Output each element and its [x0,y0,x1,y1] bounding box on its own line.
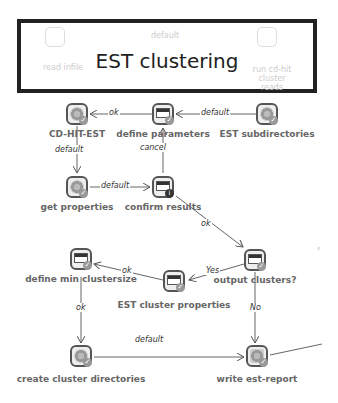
check-badge-icon: ✓ [83,358,92,367]
edge-label-default: default [200,108,230,117]
node-label: get properties [41,202,114,212]
node-define-min-clustersize[interactable]: ✓ [70,248,92,270]
node-confirm-results[interactable]: i [152,176,174,198]
node-label: confirm results [125,202,202,212]
edge-label-cancel: cancel [139,143,167,152]
edge-label-ok: ok [108,108,120,117]
node-create-cluster-directories[interactable]: ✓ [70,345,92,367]
edge-label-ok: ok [200,219,212,228]
edge-label-default: default [134,335,164,344]
node-label: EST cluster properties [118,300,231,310]
check-badge-icon: ✓ [79,116,88,125]
node-est-subdirectories[interactable]: ✓ [256,103,278,125]
node-label: EST subdirectories [220,129,315,139]
scroll-indicator: ‹ [317,244,320,253]
edge-label-no: No [249,303,262,312]
check-badge-icon: ✓ [165,116,174,125]
check-badge-icon: ✓ [269,116,278,125]
node-cd-hit-est[interactable]: ✓ [66,103,88,125]
node-label: define parameters [116,129,210,139]
edge-label-default: default [54,145,84,154]
workflow-canvas: read infile default run cd-hit cluster r… [0,0,338,403]
node-get-properties[interactable]: ✓ [66,176,88,198]
check-badge-icon: ✓ [176,283,185,292]
node-label: write est-report [217,374,298,384]
node-label: define min clustersize [25,274,137,284]
node-label: output clusters? [214,275,297,285]
node-est-cluster-properties[interactable]: ✓ [163,270,185,292]
check-badge-icon: ✓ [259,358,268,367]
edge-label-yes: Yes [205,266,220,275]
node-define-parameters[interactable]: ✓ [152,103,174,125]
check-badge-icon: ✓ [257,262,266,271]
node-output-clusters[interactable]: ✓ [244,249,266,271]
edge-label-ok: ok [75,303,87,312]
node-label: CD-HIT-EST [49,129,105,139]
check-badge-icon: ✓ [79,189,88,198]
check-badge-icon: ✓ [83,261,92,270]
node-write-est-report[interactable]: ✓ [246,345,268,367]
edge-label-default: default [100,181,130,190]
info-badge-icon: i [165,189,174,198]
node-label: create cluster directories [17,374,146,384]
